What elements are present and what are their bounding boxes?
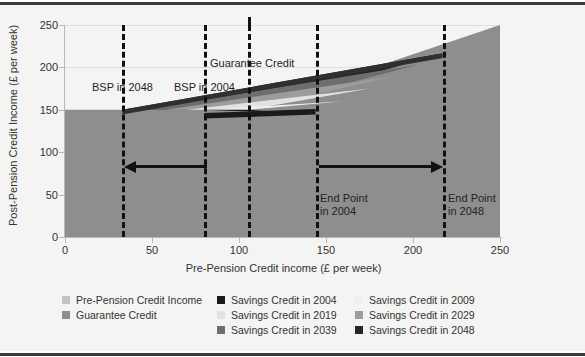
x-tick-label-50: 50 (132, 244, 172, 256)
legend-item: Savings Credit in 2029 (355, 308, 475, 321)
annotation-bsp-2048: BSP in 2048 (92, 81, 153, 93)
legend-column-2: Savings Credit in 2004 Savings Credit in… (217, 293, 337, 338)
legend-label: Guarantee Credit (76, 309, 157, 321)
annotation-end-point-2004-line1: End Point (320, 192, 368, 204)
legend-item: Savings Credit in 2009 (355, 293, 475, 306)
legend-item: Savings Credit in 2019 (217, 308, 337, 321)
y-tick-label-100: 100 (18, 147, 58, 158)
y-tick-label-150: 150 (18, 105, 58, 116)
legend-swatch-savings-credit-2009 (355, 296, 363, 304)
bottom-rule (0, 353, 585, 356)
legend-label: Savings Credit in 2019 (231, 309, 337, 321)
legend-item: Guarantee Credit (62, 308, 202, 321)
y-tick-label-50: 50 (18, 190, 58, 201)
vline-bsp-2048 (122, 25, 125, 237)
vline-end-point-2004 (316, 25, 319, 237)
chart-figure: 250 200 150 100 50 0 Post-Pension Credit… (0, 0, 585, 357)
bsp-arrow-head (124, 161, 136, 173)
y-axis-line (64, 25, 65, 238)
y-axis-title: Post-Pension Credit Income (£ per week) (7, 26, 19, 226)
legend-item: Savings Credit in 2048 (355, 323, 475, 336)
x-axis-line (65, 237, 502, 238)
end-point-arrow-head (431, 161, 443, 173)
x-tick-label-0: 0 (45, 244, 85, 256)
legend-label: Savings Credit in 2029 (369, 309, 475, 321)
x-tick-50 (152, 238, 153, 243)
y-tick-0 (59, 237, 64, 238)
y-tick-label-200: 200 (18, 62, 58, 73)
x-tick-100 (239, 238, 240, 243)
legend-label: Savings Credit in 2039 (231, 324, 337, 336)
legend-column-1: Pre-Pension Credit Income Guarantee Cred… (62, 293, 202, 323)
chart-legend: Pre-Pension Credit Income Guarantee Cred… (62, 293, 562, 338)
legend-label: Pre-Pension Credit Income (76, 294, 202, 306)
x-tick-150 (326, 238, 327, 243)
legend-swatch-savings-credit-2004 (217, 296, 225, 304)
annotation-end-point-2048-line2: in 2048 (448, 205, 484, 217)
annotation-bsp-2004: BSP in 2004 (174, 81, 235, 93)
end-point-arrow-shaft (319, 165, 431, 168)
y-tick-50 (59, 195, 64, 196)
vline-end-point-2048 (443, 25, 446, 237)
legend-item: Savings Credit in 2039 (217, 323, 337, 336)
x-tick-label-200: 200 (393, 244, 433, 256)
x-tick-250 (500, 238, 501, 243)
y-tick-250 (59, 25, 64, 26)
legend-column-3: Savings Credit in 2009 Savings Credit in… (355, 293, 475, 338)
legend-label: Savings Credit in 2009 (369, 294, 475, 306)
y-tick-label-0: 0 (18, 232, 58, 243)
legend-swatch-savings-credit-2029 (355, 311, 363, 319)
y-tick-100 (59, 152, 64, 153)
bsp-arrow-shaft (135, 165, 207, 168)
legend-label: Savings Credit in 2048 (369, 324, 475, 336)
legend-item: Pre-Pension Credit Income (62, 293, 202, 306)
vline-bsp-2004 (204, 25, 207, 237)
x-tick-label-100: 100 (219, 244, 259, 256)
legend-swatch-savings-credit-2019 (217, 311, 225, 319)
annotation-end-point-2048-line1: End Point (448, 192, 496, 204)
legend-item: Savings Credit in 2004 (217, 293, 337, 306)
x-tick-label-250: 250 (480, 244, 520, 256)
legend-swatch-guarantee-credit (62, 311, 70, 319)
annotation-end-point-2004-line2: in 2004 (320, 205, 356, 217)
x-axis-title: Pre-Pension Credit income (£ per week) (65, 262, 502, 274)
y-tick-200 (59, 67, 64, 68)
x-tick-0 (65, 238, 66, 243)
y-tick-150 (59, 110, 64, 111)
legend-swatch-savings-credit-2039 (217, 326, 225, 334)
legend-label: Savings Credit in 2004 (231, 294, 337, 306)
legend-swatch-pre-pension-credit-income (62, 296, 70, 304)
legend-swatch-savings-credit-2048 (355, 326, 363, 334)
x-tick-200 (413, 238, 414, 243)
annotation-guarantee-credit: Guarantee Credit (210, 57, 294, 69)
vline-guarantee-credit-stub (248, 17, 251, 27)
x-tick-label-150: 150 (306, 244, 346, 256)
y-tick-label-250: 250 (18, 20, 58, 31)
